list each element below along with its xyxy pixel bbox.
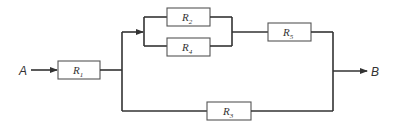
node-label-b: B <box>371 65 379 79</box>
resistor-r3: R3 <box>207 102 251 120</box>
resistor-r5: R5 <box>268 23 311 41</box>
resistor-r2: R2 <box>167 8 210 26</box>
node-label-a: A <box>18 64 27 78</box>
resistor-r1: R1 <box>58 61 100 79</box>
circuit-diagram: A R1 R2 R4 R5 B R3 <box>0 0 399 129</box>
resistor-r4: R4 <box>167 38 210 56</box>
